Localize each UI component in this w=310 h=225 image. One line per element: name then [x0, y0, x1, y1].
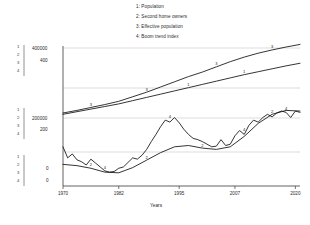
curve-key-label-2: 2: [271, 109, 274, 114]
curve-key-label-4: 4: [104, 165, 107, 170]
axis-group-top-key-2: 2: [17, 52, 20, 57]
curve-inline-labels: 11222233334444: [90, 44, 288, 170]
x-tick-label-1970: 1970: [58, 191, 69, 196]
y-axis-group-bottom: 1 2 3 4 0 0: [17, 154, 49, 186]
curve-key-label-3: 3: [90, 102, 93, 107]
x-tick-label-1982: 1982: [114, 191, 125, 196]
axis-group-middle-key-2: 2: [17, 115, 20, 120]
axis-group-middle-key-1: 1: [17, 107, 20, 112]
legend-item-1: 1: Population: [136, 4, 164, 9]
y-axis-group-top: 1 2 3 4 400000 400: [17, 44, 48, 76]
curve-key-label-1: 1: [243, 69, 246, 74]
legend: 1: Population 2: Second home owners 3: E…: [136, 4, 188, 39]
plot-grid: [63, 48, 300, 152]
axis-group-top-key-4: 4: [17, 68, 20, 73]
axis-group-top-key-3: 3: [17, 60, 20, 65]
curve-population: [63, 63, 300, 114]
y-axis-group-middle: 1 2 3 4 200000 200: [17, 107, 48, 139]
curve-key-label-3: 3: [215, 61, 218, 66]
x-tick-label-1995: 1995: [174, 191, 185, 196]
legend-item-4: 4: Boom trend index: [136, 34, 179, 39]
axis-group-middle-key-3: 3: [17, 123, 20, 128]
axis-group-top-key-1: 1: [17, 44, 20, 49]
chart-figure: 1: Population 2: Second home owners 3: E…: [0, 0, 310, 225]
y-tick-index-200: 200: [40, 127, 48, 132]
curve-key-label-2: 2: [90, 162, 93, 167]
y-tick-count-0: 0: [46, 166, 49, 171]
curve-second-home-owners: [63, 110, 300, 172]
y-tick-count-400000: 400000: [32, 46, 48, 51]
curve-key-label-3: 3: [146, 87, 149, 92]
axis-group-bottom-key-3: 3: [17, 170, 20, 175]
x-tick-label-2007: 2007: [230, 191, 241, 196]
axis-group-bottom-key-2: 2: [17, 162, 20, 167]
curve-boom-trend-index: [63, 111, 300, 172]
x-tick-label-2020: 2020: [290, 191, 301, 196]
y-tick-index-0: 0: [46, 178, 49, 183]
data-curves: [63, 44, 300, 172]
x-axis-title: Years: [150, 203, 163, 208]
y-tick-count-200000: 200000: [32, 116, 48, 121]
curve-key-label-1: 1: [187, 82, 190, 87]
curve-key-label-3: 3: [271, 44, 274, 49]
legend-item-3: 3: Effective population: [136, 24, 183, 29]
legend-item-2: 2: Second home owners: [136, 14, 188, 19]
axis-group-bottom-key-1: 1: [17, 154, 20, 159]
axis-group-middle-key-4: 4: [17, 131, 20, 136]
axis-group-bottom-key-4: 4: [17, 178, 20, 183]
curve-key-label-2: 2: [201, 143, 204, 148]
x-axis-ticks: 19701982199520072020: [58, 186, 301, 196]
curve-effective-population: [63, 44, 300, 113]
y-tick-index-400: 400: [40, 58, 48, 63]
